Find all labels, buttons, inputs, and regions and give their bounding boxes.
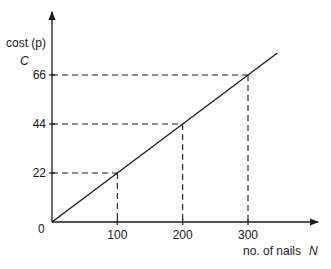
line-chart-svg: 100200300224466 cost (p) C no. of nails … [0, 0, 331, 269]
chart: 100200300224466 cost (p) C no. of nails … [0, 0, 331, 269]
x-axis-label: no. of nails [243, 244, 301, 258]
x-tick-label: 100 [107, 228, 127, 242]
y-axis-symbol: C [20, 54, 29, 68]
y-tick-label: 66 [33, 68, 47, 82]
y-tick-label: 22 [33, 166, 47, 180]
x-axis-symbol: N [309, 244, 318, 258]
y-axis-label: cost (p) [6, 36, 46, 50]
x-tick-label: 300 [238, 228, 258, 242]
data-line [52, 53, 277, 222]
y-tick-label: 44 [33, 117, 47, 131]
x-tick-label: 200 [173, 228, 193, 242]
tick-labels: 100200300224466 [33, 68, 259, 242]
origin-label: 0 [38, 222, 45, 236]
